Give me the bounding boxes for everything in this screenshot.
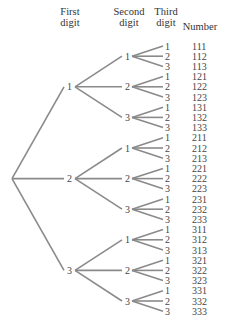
second-digit-label: 3 (125, 112, 130, 123)
first-digit-label: 1 (67, 81, 72, 92)
edge-second-to-third (132, 291, 163, 301)
tree-diagram: 1111112112311321121212231233113121323133… (0, 0, 226, 324)
edge-first-to-second (75, 87, 122, 118)
second-digit-label: 3 (125, 296, 130, 307)
edge-first-to-second (75, 270, 122, 301)
edge-second-to-third (132, 138, 163, 148)
edge-first-to-second (75, 56, 122, 87)
edge-second-to-third (132, 260, 163, 270)
edge-second-to-third (132, 209, 163, 219)
edge-first-to-second (75, 179, 122, 210)
first-digit-label: 3 (67, 265, 72, 276)
edge-root-to-first (12, 87, 64, 179)
cut-off-caption (14, 318, 214, 324)
second-digit-label: 2 (125, 81, 130, 92)
number-value: 333 (192, 306, 207, 317)
edge-second-to-third (132, 168, 163, 178)
edge-second-to-third (132, 46, 163, 56)
edge-second-to-third (132, 230, 163, 240)
edge-second-to-third (132, 148, 163, 158)
edge-first-to-second (75, 240, 122, 271)
edge-second-to-third (132, 301, 163, 311)
edge-second-to-third (132, 240, 163, 250)
edge-second-to-third (132, 77, 163, 87)
edge-second-to-third (132, 56, 163, 66)
second-digit-label: 1 (125, 234, 130, 245)
second-digit-label: 2 (125, 173, 130, 184)
third-digit-label: 3 (165, 306, 170, 317)
second-digit-label: 3 (125, 204, 130, 215)
edge-second-to-third (132, 179, 163, 189)
second-digit-label: 1 (125, 143, 130, 154)
edge-second-to-third (132, 117, 163, 127)
edge-second-to-third (132, 87, 163, 97)
second-digit-label: 1 (125, 51, 130, 62)
edge-root-to-first (12, 179, 64, 271)
second-digit-label: 2 (125, 265, 130, 276)
edge-second-to-third (132, 107, 163, 117)
edge-first-to-second (75, 148, 122, 179)
edge-second-to-third (132, 199, 163, 209)
edge-second-to-third (132, 270, 163, 280)
first-digit-label: 2 (67, 173, 72, 184)
